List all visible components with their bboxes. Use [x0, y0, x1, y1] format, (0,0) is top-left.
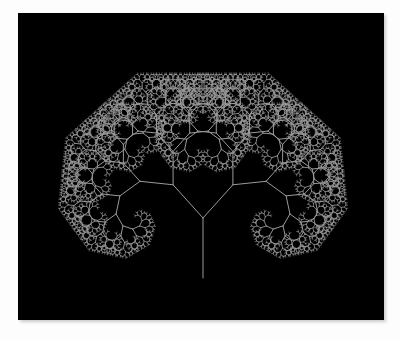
fractal-figure-panel — [18, 13, 384, 320]
fractal-tree-canvas — [18, 13, 384, 320]
page-root — [0, 0, 400, 341]
